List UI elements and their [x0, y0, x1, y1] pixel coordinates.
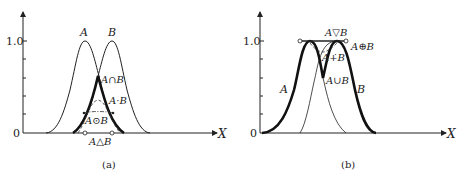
union-label: A∪B [325, 75, 349, 86]
bounded-sum-label: A⊕B [350, 41, 374, 52]
curve-label-a: A [79, 26, 88, 39]
y-tick-label-top-b: 1.0 [243, 35, 261, 48]
curve-label-b-b: B [356, 83, 365, 96]
panel-b: 1.0 0 X A B A▽B A⊕B A+̇B A∪B (b) [243, 12, 456, 170]
x-axis-label-a: X [217, 127, 227, 141]
fuzzy-operations-figure: 1.0 0 X A B A∩B A·B A⊙B A△B (a) [0, 0, 465, 183]
y-ticks-a [23, 41, 27, 114]
intersection-label: A∩B [100, 74, 124, 85]
x-axis-label-b: X [446, 127, 456, 141]
drastic-product-label: A△B [88, 136, 111, 147]
y-ticks-b [260, 41, 264, 114]
drastic-sum-label: A▽B [324, 27, 347, 38]
y-tick-label-zero-a: 0 [13, 127, 20, 140]
curve-label-b: B [107, 26, 116, 39]
y-tick-label-zero-b: 0 [250, 127, 257, 140]
product-label: A·B [108, 95, 127, 106]
bounded-product-label: A⊙B [84, 115, 108, 126]
panel-caption-a: (a) [102, 159, 116, 170]
panel-caption-b: (b) [341, 159, 355, 170]
panel-a: 1.0 0 X A B A∩B A·B A⊙B A△B (a) [6, 12, 227, 170]
algebraic-sum-label: A+̇B [321, 52, 345, 63]
y-tick-label-top-a: 1.0 [6, 35, 24, 48]
curve-label-a-b: A [279, 83, 288, 96]
